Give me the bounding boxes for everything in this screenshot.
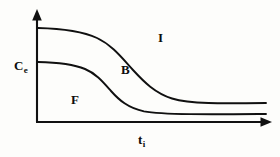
y-axis-arrowhead (32, 9, 42, 21)
x-axis-arrowhead (261, 117, 273, 127)
region-label-f: F (71, 93, 79, 106)
y-axis-label: Ce (14, 59, 27, 72)
y-axis-label-main: C (14, 58, 23, 73)
x-axis-label: ti (138, 133, 145, 146)
x-axis-label-subscript: i (143, 139, 146, 149)
region-label-b: B (121, 63, 130, 76)
x-axis-label-main: t (138, 132, 142, 147)
region-label-i: I (158, 31, 163, 44)
figure-container: I B F Ce ti (0, 0, 280, 157)
y-axis-label-subscript: e (24, 65, 28, 75)
